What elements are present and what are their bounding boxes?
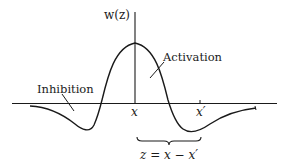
y-axis-label: w(z)	[104, 8, 130, 22]
diagram-canvas: w(z) Activation Inhibition x x′ z = x − …	[0, 0, 285, 167]
x-origin-label: x	[131, 105, 138, 119]
distance-brace	[137, 137, 201, 145]
x-prime-label: x′	[196, 105, 206, 119]
activation-label: Activation	[162, 50, 223, 64]
curve-end-tick	[255, 106, 256, 110]
inhibition-label: Inhibition	[37, 82, 94, 96]
inhibition-leader	[62, 94, 74, 111]
brace-formula-label: z = x − x′	[139, 148, 198, 162]
